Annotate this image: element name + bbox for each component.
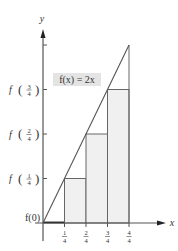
x-axis-label: x xyxy=(169,217,175,228)
y-tick-label-lparen: ( xyxy=(18,171,22,186)
y-tick-label-denominator: 4 xyxy=(27,179,31,186)
x-tick-label-numerator: 2 xyxy=(84,229,87,236)
x-tick-label-numerator: 3 xyxy=(106,229,109,236)
y-tick-label-numerator: 3 xyxy=(27,83,30,90)
y-tick-label-fname: f xyxy=(9,173,13,184)
riemann-rectangle xyxy=(108,90,130,224)
y-tick-label-numerator: 2 xyxy=(27,127,30,134)
x-tick-label-denominator: 4 xyxy=(84,237,88,244)
function-label-text: f(x) = 2x xyxy=(59,74,95,86)
y-tick-label-rparen: ) xyxy=(35,171,39,186)
riemann-sum-diagram: 14243444 f(0)f(14)f(24)f(34) f(x) = 2x y… xyxy=(0,0,178,251)
y-tick-label-denominator: 4 xyxy=(27,90,31,97)
y-tick-label-rparen: ) xyxy=(35,126,39,141)
y-tick-label-f0: f(0) xyxy=(25,212,40,224)
riemann-rectangle xyxy=(65,179,87,224)
rectangles-group xyxy=(43,90,129,224)
x-tick-label-numerator: 1 xyxy=(63,229,66,236)
x-tick-label-denominator: 4 xyxy=(127,237,131,244)
y-ticks-group: f(0)f(14)f(24)f(34) xyxy=(9,45,47,224)
function-label: f(x) = 2x xyxy=(53,73,101,86)
y-tick-label-lparen: ( xyxy=(18,82,22,97)
x-tick-label-denominator: 4 xyxy=(106,237,110,244)
y-tick-label-rparen: ) xyxy=(35,82,39,97)
x-tick-label-numerator: 4 xyxy=(127,229,131,236)
x-axis-arrow-icon xyxy=(157,221,166,226)
y-tick-label-lparen: ( xyxy=(18,126,22,141)
y-tick-label-denominator: 4 xyxy=(27,135,31,142)
x-tick-label-denominator: 4 xyxy=(63,237,67,244)
riemann-rectangle xyxy=(86,134,108,223)
y-tick-label-fname: f xyxy=(9,129,13,140)
y-axis-label: y xyxy=(39,13,45,24)
y-tick-label-numerator: 1 xyxy=(27,172,30,179)
y-tick-label-fname: f xyxy=(9,84,13,95)
x-ticks-group: 14243444 xyxy=(62,223,132,244)
y-axis-arrow-icon xyxy=(41,29,46,38)
